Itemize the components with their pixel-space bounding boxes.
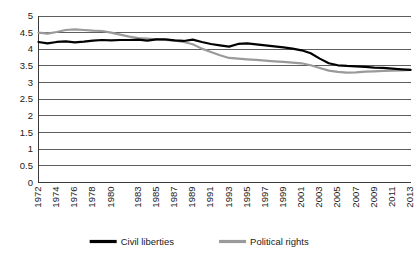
x-tick-label: 1993 (223, 187, 234, 208)
x-tick-label: 1985 (150, 187, 161, 208)
legend-label-civil-liberties: Civil liberties (121, 236, 175, 247)
x-tick-label: 2013 (404, 187, 415, 208)
series-line-civil-liberties (39, 39, 411, 70)
x-tick-label: 1997 (259, 187, 270, 208)
x-tick-label: 1976 (68, 187, 79, 208)
y-tick-label: 0 (28, 177, 33, 188)
y-tick-label: 3.5 (20, 60, 33, 71)
y-tick-label: 3 (28, 77, 33, 88)
x-tick-label: 2005 (331, 187, 342, 208)
x-tick-label: 2007 (350, 187, 361, 208)
chart-canvas: 00.511.522.533.544.55 197219741976197819… (0, 0, 418, 256)
line-chart: 00.511.522.533.544.55 197219741976197819… (0, 0, 418, 256)
y-tick-label: 2.5 (20, 93, 33, 104)
x-tick-label: 1974 (50, 187, 61, 208)
y-tick-label: 1 (28, 143, 33, 154)
x-tick-label: 1987 (168, 187, 179, 208)
x-tick-label: 1972 (32, 187, 43, 208)
y-axis-tick-labels: 00.511.522.533.544.55 (20, 10, 33, 188)
x-tick-label: 1999 (277, 187, 288, 208)
chart-legend: Civil libertiesPolitical rights (90, 236, 309, 247)
x-tick-label: 1983 (132, 187, 143, 208)
y-tick-label: 5 (28, 10, 33, 21)
x-tick-label: 2003 (313, 187, 324, 208)
x-tick-label: 1995 (241, 187, 252, 208)
gridlines (39, 16, 411, 166)
x-tick-label: 2009 (368, 187, 379, 208)
y-tick-label: 1.5 (20, 127, 33, 138)
legend-label-political-rights: Political rights (250, 236, 309, 247)
x-tick-label: 2011 (386, 187, 397, 207)
x-tick-label: 1978 (86, 187, 97, 208)
x-axis-tick-labels: 1972197419761978198019831985198719891991… (32, 187, 415, 208)
y-tick-label: 4 (28, 43, 33, 54)
x-tick-label: 1991 (204, 187, 215, 208)
y-tick-label: 4.5 (20, 27, 33, 38)
x-tick-label: 1989 (186, 187, 197, 208)
y-tick-label: 2 (28, 110, 33, 121)
x-tick-label: 2001 (295, 187, 306, 208)
y-tick-label: 0.5 (20, 160, 33, 171)
x-tick-label: 1980 (105, 187, 116, 208)
